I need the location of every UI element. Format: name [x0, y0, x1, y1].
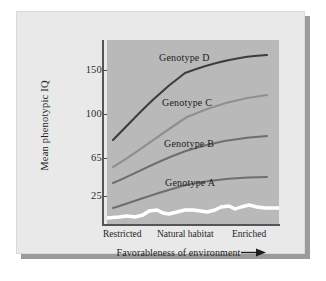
y-axis-title: Mean phenotypic IQ — [39, 66, 50, 186]
x-tick-label-enriched: Enriched — [232, 229, 266, 239]
baseline-wave-line — [107, 205, 279, 218]
plot-curves — [107, 40, 279, 224]
x-axis-tick-labels: Restricted Natural habitat Enriched — [103, 229, 285, 243]
plot-panel: Genotype D Genotype C Genotype B Genotyp… — [107, 40, 279, 224]
y-tick-label-100: 100 — [76, 108, 102, 119]
series-label-genotype-d: Genotype D — [159, 52, 210, 63]
figure-card: Mean phenotypic IQ 150 100 65 25 — [16, 11, 305, 254]
arrow-right-icon — [241, 248, 267, 257]
y-tick-100: 100 — [69, 108, 102, 120]
x-tick-label-restricted: Restricted — [103, 229, 142, 239]
series-label-genotype-a: Genotype A — [165, 177, 215, 188]
y-tick-65: 65 — [69, 152, 102, 164]
y-tick-label-150: 150 — [76, 64, 102, 75]
series-label-genotype-b: Genotype B — [164, 138, 214, 149]
y-axis-line — [102, 40, 104, 226]
y-tick-25: 25 — [69, 190, 102, 202]
x-axis-title: Favorableness of environment — [117, 247, 241, 258]
y-tick-150: 150 — [69, 64, 102, 76]
y-tick-label-65: 65 — [76, 152, 102, 163]
series-label-genotype-c: Genotype C — [162, 97, 212, 108]
x-axis-title-row: Favorableness of environment — [87, 245, 297, 260]
figure-root: Mean phenotypic IQ 150 100 65 25 — [0, 0, 326, 281]
y-tick-label-25: 25 — [76, 190, 102, 201]
x-axis-line — [102, 224, 280, 226]
x-tick-label-natural-habitat: Natural habitat — [157, 229, 214, 239]
